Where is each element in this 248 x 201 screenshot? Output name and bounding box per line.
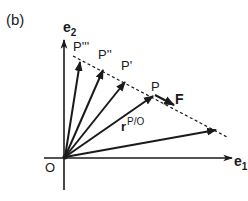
origin-point [63,155,68,160]
point-label-p-triple-prime: P''' [73,39,89,54]
e2-axis-label: e2 [63,19,77,38]
e1-axis-label: e1 [234,153,248,172]
point-label-p-prime: P' [121,58,132,73]
point-label-p: P [151,79,160,94]
position-vectors [63,62,217,160]
position-vector-label: rP/O [121,116,145,134]
vector-to-far-point [65,130,216,157]
vector-to-p-prime [65,82,125,157]
force-label: F [175,91,184,107]
vector-to-p-triple-prime [65,62,80,157]
origin-label: O [45,160,55,175]
panel-label: (b) [6,11,24,28]
point-label-p-double-prime: P'' [98,47,112,62]
vector-diagram: (b) e2 e1 O P''' P'' P' P F rP/O [0,0,248,201]
line-of-action [73,56,227,137]
